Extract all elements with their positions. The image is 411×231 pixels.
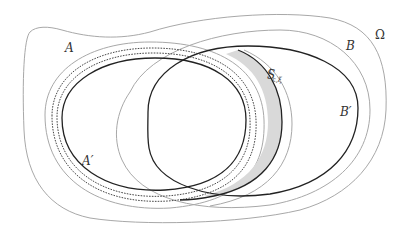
label-a: A bbox=[65, 42, 74, 54]
label-s-sup: t bbox=[269, 67, 272, 75]
label-a-prime: A′ bbox=[82, 155, 93, 167]
sets-diagram: Ω B A A′ B′ Stε,ξ bbox=[0, 0, 411, 231]
dashed-offset-outer bbox=[52, 48, 256, 201]
label-b: B bbox=[346, 40, 355, 52]
set-a-boundary bbox=[45, 42, 264, 208]
set-a-prime-boundary bbox=[62, 58, 246, 190]
label-s-band: Stε,ξ bbox=[267, 68, 282, 84]
label-omega: Ω bbox=[375, 29, 385, 41]
label-b-prime: B′ bbox=[340, 106, 352, 118]
label-s-sub: ε,ξ bbox=[272, 76, 282, 84]
